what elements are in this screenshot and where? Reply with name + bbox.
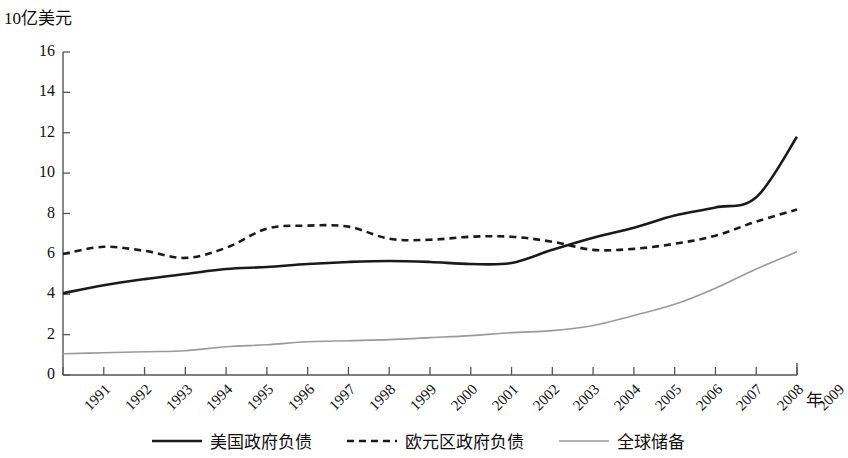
series-lines: [63, 137, 797, 354]
legend-line-swatch: [151, 435, 203, 447]
legend-label: 欧元区政府负债: [405, 428, 524, 453]
legend-line-swatch: [346, 435, 398, 447]
legend-item: 欧元区政府负债: [346, 428, 524, 453]
series-line: [63, 137, 797, 293]
legend-item: 全球储备: [558, 428, 685, 453]
legend-label: 美国政府负债: [210, 428, 312, 453]
series-line: [63, 209, 797, 257]
legend-line-swatch: [558, 435, 610, 447]
chart-legend: 美国政府负债欧元区政府负债全球储备: [0, 428, 836, 453]
legend-label: 全球储备: [617, 428, 685, 453]
legend-item: 美国政府负债: [151, 428, 312, 453]
series-line: [63, 252, 797, 354]
